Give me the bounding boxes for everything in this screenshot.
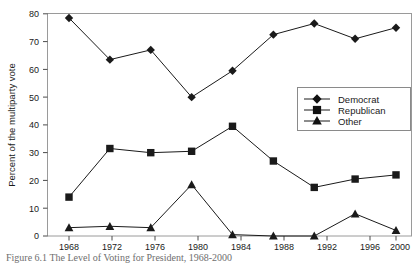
y-axis-tick-labels: 80 70 60 50 40 30 20 10 0	[29, 9, 39, 241]
x-tick-label: 1968	[59, 242, 79, 252]
y-tick-label: 70	[29, 37, 39, 47]
y-tick-label: 50	[29, 93, 39, 103]
data-point-marker	[311, 184, 318, 191]
y-tick-label: 80	[29, 9, 39, 19]
y-tick-label: 0	[34, 231, 39, 241]
legend-entry-republican[interactable]: Republican	[304, 105, 386, 116]
y-tick-label: 60	[29, 65, 39, 75]
y-axis-title: Percent of the multiparty vote	[6, 63, 17, 187]
data-point-marker	[351, 175, 358, 182]
data-point-marker	[147, 149, 154, 156]
y-tick-label: 40	[29, 120, 39, 130]
y-tick-label: 20	[29, 176, 39, 186]
x-tick-label: 1984	[231, 242, 251, 252]
x-tick-label: 1972	[102, 242, 122, 252]
legend-label: Other	[338, 116, 362, 127]
figure-container: 80 70 60 50 40 30 20 10 0 Percent of the…	[0, 0, 419, 265]
figure-caption: Figure 6.1 The Level of Voting for Presi…	[6, 252, 411, 263]
legend-label: Democrat	[338, 94, 380, 105]
y-tick-label: 10	[29, 204, 39, 214]
square-marker-icon	[313, 106, 321, 114]
x-tick-label: 1988	[274, 242, 294, 252]
x-tick-label: 1976	[145, 242, 165, 252]
legend-label: Republican	[338, 105, 386, 116]
x-tick-label: 1996	[360, 242, 380, 252]
line-chart: 80 70 60 50 40 30 20 10 0 Percent of the…	[0, 0, 419, 265]
data-point-marker	[392, 171, 399, 178]
data-point-marker	[106, 145, 113, 152]
chart-legend: Democrat Republican Other	[298, 88, 411, 131]
data-point-marker	[65, 193, 72, 200]
x-tick-label: 1992	[317, 242, 337, 252]
data-point-marker	[188, 148, 195, 155]
data-point-marker	[229, 123, 236, 130]
x-axis-tick-labels: 1968 1972 1976 1980 1984 1988 1992 1996 …	[59, 242, 410, 252]
y-axis-ticks	[43, 14, 48, 236]
data-point-marker	[270, 157, 277, 164]
y-tick-label: 30	[29, 148, 39, 158]
x-tick-label: 1980	[188, 242, 208, 252]
x-tick-label: 2000	[390, 242, 410, 252]
